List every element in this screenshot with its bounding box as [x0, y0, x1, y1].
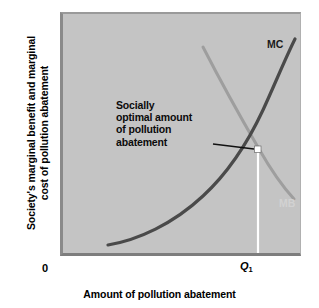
economics-chart-figure: Society's marginal benefit and marginal …: [0, 0, 319, 308]
annotation-line-4: abatement: [116, 136, 192, 148]
q1-base: Q: [240, 260, 249, 272]
y-axis-title: Society's marginal benefit and marginal …: [25, 8, 51, 258]
intersection-marker: [255, 146, 262, 153]
y-axis-title-line-2: cost of pollution abatement: [38, 8, 51, 258]
x-axis-title: Amount of pollution abatement: [0, 288, 319, 300]
socially-optimal-annotation: Socially optimal amount of pollution aba…: [116, 99, 192, 148]
origin-label: 0: [42, 262, 48, 274]
mb-curve-label: MB: [279, 197, 295, 209]
q1-subscript: 1: [249, 265, 253, 274]
mc-curve-label: MC: [267, 38, 283, 50]
y-axis-title-line-1: Society's marginal benefit and marginal: [25, 8, 38, 258]
q1-tick-label: Q1: [240, 260, 253, 272]
annotation-leader-line: [213, 144, 254, 149]
annotation-line-2: optimal amount: [116, 111, 192, 123]
annotation-line-1: Socially: [116, 99, 192, 111]
annotation-line-3: of pollution: [116, 123, 192, 135]
